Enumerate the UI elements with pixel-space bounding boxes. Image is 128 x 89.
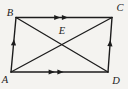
vertex-label-b: B	[7, 7, 14, 18]
vertex-label-c: C	[116, 2, 124, 13]
vertex-label-a: A	[1, 74, 9, 85]
vertex-label-d: D	[111, 75, 120, 86]
parallelogram-diagram: A B C D E	[0, 0, 128, 89]
intersection-label-e: E	[58, 25, 66, 36]
geometry-figure: A B C D E	[0, 0, 128, 89]
